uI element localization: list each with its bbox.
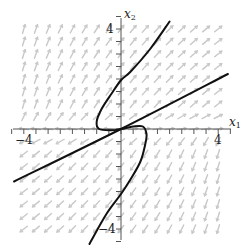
- x-tick-label-4: 4: [214, 134, 222, 146]
- y-tick-label-neg4: −4: [98, 223, 116, 235]
- x1-axis-label: x1: [229, 116, 241, 130]
- phase-portrait-plot: [0, 0, 247, 250]
- x2-axis-label: x2: [124, 8, 136, 22]
- x-tick-label-neg4: −4: [15, 134, 33, 146]
- y-tick-label-4: 4: [106, 23, 114, 35]
